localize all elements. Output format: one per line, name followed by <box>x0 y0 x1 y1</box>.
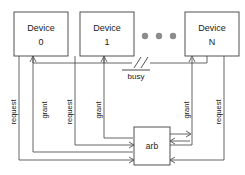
device-0-line1: Device <box>27 23 55 33</box>
label-request-device-1: request <box>65 99 74 125</box>
arbiter-box[interactable]: arb <box>134 127 170 165</box>
grant-wire-device-1 <box>101 56 133 138</box>
label-grant-device-n: grant <box>182 101 191 119</box>
request-wire-device-0 <box>19 56 134 163</box>
busy-bus-label: busy <box>122 70 150 81</box>
label-request-device-0: request <box>9 99 18 125</box>
device-n-line2: N <box>209 37 216 47</box>
busy-label-text: busy <box>128 72 145 81</box>
arbiter-label: arb <box>146 141 159 151</box>
device-0-line2: 0 <box>38 37 43 47</box>
label-grant-device-1: grant <box>94 101 103 119</box>
busy-bus-wire <box>33 56 207 63</box>
device-1-line1: Device <box>93 23 121 33</box>
label-request-device-n: request <box>214 99 223 125</box>
arb-right-stub-in <box>170 138 190 144</box>
device-box-0[interactable]: Device 0 <box>14 12 68 56</box>
bus-arbitration-diagram: Device 0 Device 1 Device N busy arb <box>0 0 245 175</box>
device-box-n[interactable]: Device N <box>185 12 239 56</box>
ellipsis-icon <box>142 33 176 39</box>
label-grant-device-0: grant <box>40 101 49 119</box>
grant-wire-device-n <box>170 56 195 145</box>
arb-right-stub-out <box>170 131 191 137</box>
device-1-line2: 1 <box>104 37 109 47</box>
device-box-1[interactable]: Device 1 <box>80 12 134 56</box>
bus-break-mark <box>134 57 148 68</box>
device-n-line1: Device <box>198 23 226 33</box>
